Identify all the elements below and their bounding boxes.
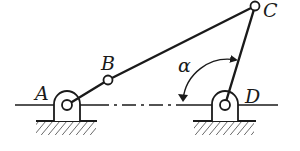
label-c: C: [263, 0, 278, 21]
joint-b: [104, 76, 113, 85]
label-b: B: [100, 52, 115, 74]
linkage-diagram: A B C D α: [0, 0, 300, 151]
joint-d: [220, 100, 230, 110]
label-d: D: [244, 85, 260, 107]
label-alpha: α: [178, 54, 191, 76]
joint-a: [62, 100, 72, 110]
angle-alpha-arrow-start: [178, 94, 188, 102]
label-a: A: [33, 82, 49, 104]
links: [67, 6, 255, 105]
joint-c: [251, 2, 260, 11]
